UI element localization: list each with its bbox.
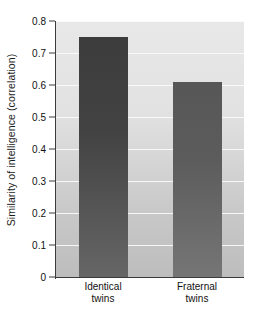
y-axis-title: Similarity of intelligence (correlation) [0,0,22,280]
bar-chart-figure: Similarity of intelligence (correlation)… [0,0,260,311]
y-axis-tick-label: 0 [40,272,46,283]
y-axis-tick-label: 0.6 [32,80,46,91]
y-axis-tick-label: 0.5 [32,112,46,123]
y-axis-tick-label: 0.3 [32,176,46,187]
x-axis-line [55,277,244,278]
x-axis-category-label-line: twins [56,293,150,305]
gridline [56,21,244,22]
x-axis-category-label-line: Fraternal [177,281,217,292]
x-axis-category-label-line: Identical [84,281,121,292]
y-axis-tick-label: 0.1 [32,240,46,251]
y-axis-tick-label: 0.2 [32,208,46,219]
y-axis-tick-label: 0.4 [32,144,46,155]
y-axis-tick-label: 0.7 [32,48,46,59]
bar-0 [79,37,128,277]
x-axis-category-label: Fraternaltwins [150,281,244,305]
y-axis-tick-label: 0.8 [32,16,46,27]
x-axis-category-label: Identicaltwins [56,281,150,305]
x-axis-category-labels: IdenticaltwinsFraternaltwins [56,281,244,311]
y-axis-tick-labels: 00.10.20.30.40.50.60.70.8 [22,0,49,311]
bar-1 [173,82,222,277]
plot-area [56,21,244,277]
y-axis-title-text: Similarity of intelligence (correlation) [5,54,17,227]
x-axis-category-label-line: twins [150,293,244,305]
